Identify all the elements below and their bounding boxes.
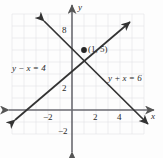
y-tick-label-neg2: −2 bbox=[58, 127, 68, 136]
coordinate-plane-figure: y x 8 2 −2 −2 2 4 (1, 5) y − x = 4 y + x… bbox=[0, 0, 163, 158]
intersection-point-label: (1, 5) bbox=[88, 45, 108, 54]
y-tick-label-2: 2 bbox=[62, 84, 67, 93]
x-axis-label: x bbox=[151, 112, 155, 121]
equation-label-line1: y − x = 4 bbox=[12, 64, 46, 73]
intersection-point-marker bbox=[81, 47, 87, 53]
y-axis-label: y bbox=[78, 3, 82, 12]
x-tick-label-2: 2 bbox=[93, 113, 98, 122]
x-tick-label-4: 4 bbox=[117, 113, 122, 122]
x-tick-label-neg2: −2 bbox=[43, 113, 53, 122]
y-tick-label-8: 8 bbox=[62, 26, 67, 35]
equation-label-line2: y + x = 6 bbox=[108, 74, 142, 83]
